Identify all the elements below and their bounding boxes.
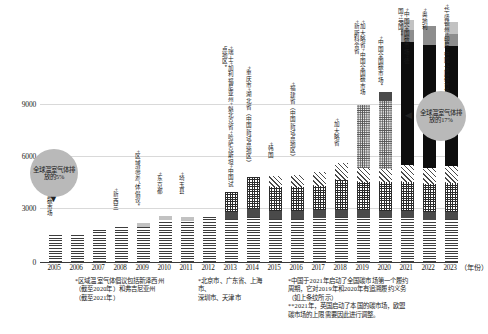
bar-segment-eu: [423, 220, 436, 262]
footnote-china-national: *中国于2021年启动了全国碳市场第一个履约 周期，它对2019年和2020年有…: [288, 277, 478, 319]
plot-area: 9000 6000 3000 0: [40, 20, 470, 262]
bar-segment-eu: [71, 233, 84, 262]
ytick-9000: 9000: [22, 101, 36, 109]
table-row[interactable]: [203, 215, 216, 262]
table-row[interactable]: [71, 233, 84, 262]
footnote-rggi: *区域温室气体倡议包括新泽西州 （截至2020年）和弗吉尼亚州 （截至2021年…: [75, 277, 195, 302]
bar-segment-china-pilot: [225, 192, 238, 212]
bar-segment-china-pilot: [313, 186, 326, 210]
table-row[interactable]: [335, 163, 348, 262]
bar-segment-misc: [357, 168, 370, 182]
bar-segment-top: [379, 92, 392, 101]
bar-segment-eu: [115, 227, 128, 262]
bar-segment-china-pilot: [423, 184, 436, 212]
bar-segment-ontario: [335, 163, 348, 180]
bar-segment-other: [445, 212, 458, 219]
bar-segment-china-pilot: [445, 183, 458, 212]
table-row[interactable]: [159, 216, 172, 262]
bar-segment-other: [291, 211, 304, 219]
callout-arrow-left: ▼: [49, 195, 58, 204]
table-row[interactable]: [313, 172, 326, 262]
bar-note-2021: +中国全国碳市场+德国+英国**: [398, 8, 410, 70]
bar-note-2014: +重庆市+湖北省（中国新试点地区）: [245, 66, 252, 176]
table-row[interactable]: [379, 92, 392, 262]
table-row[interactable]: [115, 227, 128, 262]
bar-segment-china-pilot: [247, 177, 260, 209]
bar-segment-eu: [49, 234, 62, 262]
bar-segment-china-pilot: [269, 187, 282, 211]
x-axis-unit: （年份）: [460, 264, 488, 273]
bar-note-2019: +加大略省+中国全国碳市场+新斯科舍省: [354, 20, 366, 104]
footnote-china-pilots: *北京市、广东省、上海市、 深圳市、天津市: [198, 277, 274, 302]
bar-note-2013: +瑞士+加利福尼亚州+魁北克省+哈萨克斯坦+中国试点地区*: [222, 46, 234, 190]
bar-segment-eu: [93, 228, 106, 262]
table-row[interactable]: [137, 223, 150, 262]
bar-segment-misc: [379, 169, 392, 183]
bar-note-2018: +加大略省: [334, 118, 340, 162]
bar-note-2009: +区域温室气体倡议*: [135, 150, 141, 222]
bar-segment-other: [401, 211, 414, 218]
bar-note-2010: +东京都: [157, 172, 163, 215]
bar-segment-other: [269, 211, 282, 219]
table-row[interactable]: [93, 228, 106, 262]
callout-arrow-right: ◀: [405, 111, 412, 120]
bar-segment-misc: [445, 166, 458, 183]
callout-bubble-17-percent: 全球温室气体排放的17%: [416, 91, 466, 141]
bar-note-2011: +埼玉县: [179, 172, 185, 215]
bar-segment-misc: [423, 168, 436, 185]
table-row[interactable]: [225, 192, 238, 262]
table-row[interactable]: [49, 234, 62, 262]
table-row[interactable]: [291, 175, 304, 262]
callout-bubble-5-percent: 全球温室气体排放的5%: [30, 149, 78, 197]
bar-segment-china-pilot: [335, 180, 348, 210]
bar-segment-other: [379, 211, 392, 218]
bar-segment-china-pilot: [379, 182, 392, 211]
table-row[interactable]: [181, 217, 194, 262]
bar-note-2016: +福建省（中国新试点地区）: [290, 82, 296, 174]
axis-baseline: [40, 262, 458, 263]
bar-segment-other: [357, 210, 370, 218]
bar-segment-korea: [291, 175, 304, 187]
bar-segment-eu: [181, 221, 194, 262]
bar-note-2015: +韩国: [268, 142, 274, 174]
table-row[interactable]: [269, 176, 282, 262]
bar-segment-misc: [401, 165, 414, 182]
bar-segment-eu: [357, 218, 370, 262]
table-row[interactable]: [247, 177, 260, 262]
bar-segment-other: [225, 212, 238, 219]
bar-note-2008: +新西兰: [113, 188, 119, 226]
bar-segment-china-pilot: [357, 182, 370, 210]
bar-segment-eu: [203, 215, 216, 262]
bar-segment-other: [423, 212, 436, 219]
ytick-3000: 3000: [22, 205, 36, 213]
bar-segment-china-national-retro: [379, 101, 392, 169]
table-row[interactable]: [423, 26, 436, 262]
bar-segment-eu: [335, 217, 348, 262]
table-row[interactable]: [357, 105, 370, 262]
bar-segment-other: [313, 210, 326, 218]
bar-segment-eu: [445, 219, 458, 262]
x-axis-labels: 2005 2006 2007 2008 2009 2010 2011 2012 …: [40, 264, 480, 276]
bar-segment-eu: [159, 220, 172, 262]
bar-segment-eu: [137, 227, 150, 262]
ytick-0: 0: [32, 259, 36, 267]
bar-segment-eu: [291, 219, 304, 263]
bar-segment-other: [247, 209, 260, 217]
bar-segment-eu: [269, 219, 282, 262]
bar-segment-eu: [225, 219, 238, 262]
bar-segment-korea: [313, 172, 326, 186]
bar-segment-china-national-retro: [357, 105, 370, 168]
bar-segment-china-pilot: [291, 187, 304, 210]
bar-segment-china-pilot: [401, 182, 414, 211]
bar-segment-eu: [379, 218, 392, 262]
bar-note-2022: +奥地利: [422, 8, 428, 46]
bar-segment-eu: [247, 217, 260, 262]
bar-segment-eu: [313, 218, 326, 262]
bar-segment-korea: [269, 176, 282, 187]
bar-segment-other: [335, 210, 348, 218]
bar-note-2023: +华盛顿州+印尼+中国全国碳市场: [444, 4, 450, 76]
bar-note-2020: +中国全国碳市场*: [378, 36, 384, 92]
bar-segment-eu: [401, 218, 414, 262]
